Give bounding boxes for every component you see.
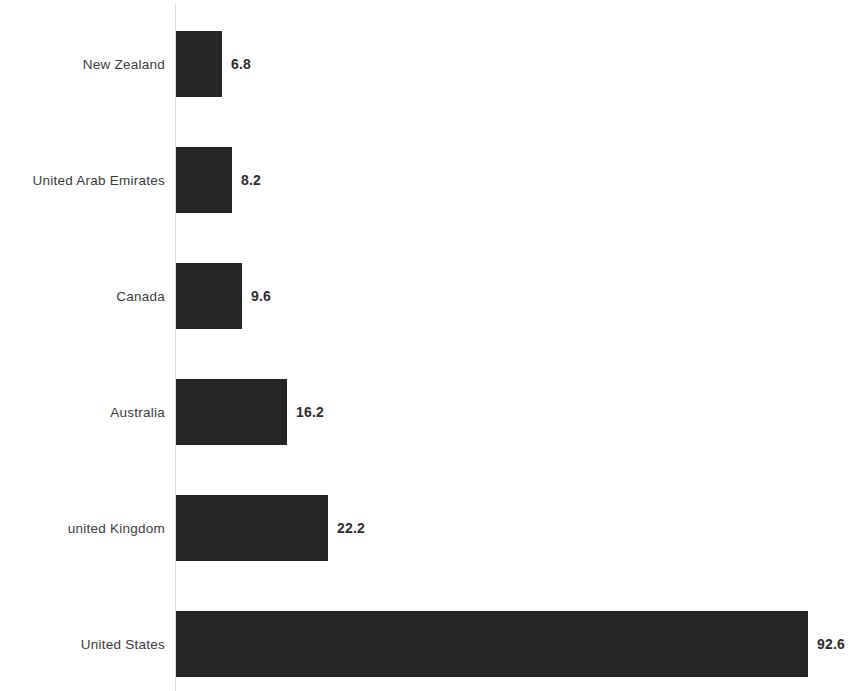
category-label: United States — [0, 611, 165, 677]
bar-row: United Arab Emirates8.2 — [0, 147, 856, 213]
bar-value-label: 8.2 — [241, 147, 261, 213]
category-label: Australia — [0, 379, 165, 445]
bar-value-label: 22.2 — [337, 495, 365, 561]
category-label: united Kingdom — [0, 495, 165, 561]
bar-value-label: 6.8 — [231, 31, 251, 97]
bar-value-label: 9.6 — [251, 263, 271, 329]
bar-value-label: 92.6 — [817, 611, 845, 677]
bar-chart: New Zealand6.8United Arab Emirates8.2Can… — [0, 0, 856, 691]
bar — [176, 147, 232, 213]
category-label: Canada — [0, 263, 165, 329]
bar-row: New Zealand6.8 — [0, 31, 856, 97]
bar-value-label: 16.2 — [296, 379, 324, 445]
category-label: New Zealand — [0, 31, 165, 97]
bar-row: Australia16.2 — [0, 379, 856, 445]
bar — [176, 263, 242, 329]
bar — [176, 611, 808, 677]
category-label: United Arab Emirates — [0, 147, 165, 213]
bar — [176, 379, 287, 445]
bar — [176, 495, 328, 561]
bar-row: united Kingdom22.2 — [0, 495, 856, 561]
bar — [176, 31, 222, 97]
bar-row: United States92.6 — [0, 611, 856, 677]
bar-row: Canada9.6 — [0, 263, 856, 329]
plot-area: New Zealand6.8United Arab Emirates8.2Can… — [0, 0, 856, 691]
